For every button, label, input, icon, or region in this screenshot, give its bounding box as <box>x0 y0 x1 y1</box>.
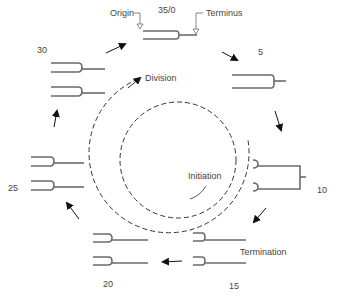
initiation-pointer <box>190 186 206 199</box>
chromosome-stage-0 <box>134 13 203 39</box>
stage-label-20: 20 <box>103 280 113 289</box>
chromosome-stage-10 <box>253 160 306 191</box>
stage-label-0: 35/0 <box>158 6 176 15</box>
terminus-label: Terminus <box>206 9 243 18</box>
division-cycle-arc <box>89 78 249 233</box>
termination-label: Termination <box>240 248 287 257</box>
stage-label-5: 5 <box>258 48 263 57</box>
initiation-label: Initiation <box>188 172 222 181</box>
chromosome-stage-5 <box>232 75 286 88</box>
stage-label-10: 10 <box>317 186 327 195</box>
chromosome-stage-15 <box>193 233 246 265</box>
chromosome-stage-20 <box>93 234 148 265</box>
stage-label-25: 25 <box>8 184 18 193</box>
chromosome-stage-25 <box>31 157 84 190</box>
origin-label: Origin <box>110 9 134 18</box>
stage-label-30: 30 <box>37 46 47 55</box>
stage-label-15: 15 <box>229 282 239 291</box>
initiation-circle <box>120 102 236 218</box>
chromosome-stage-30 <box>51 63 105 96</box>
division-label: Division <box>145 74 177 83</box>
